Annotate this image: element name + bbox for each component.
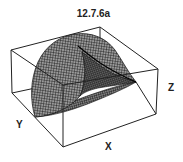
plot-canvas [0, 0, 183, 162]
surface-plot-figure: 12.7.6a [0, 0, 183, 162]
z-axis-label: Z [168, 82, 174, 93]
y-axis-label: Y [16, 119, 23, 130]
x-axis-label: X [105, 141, 112, 152]
